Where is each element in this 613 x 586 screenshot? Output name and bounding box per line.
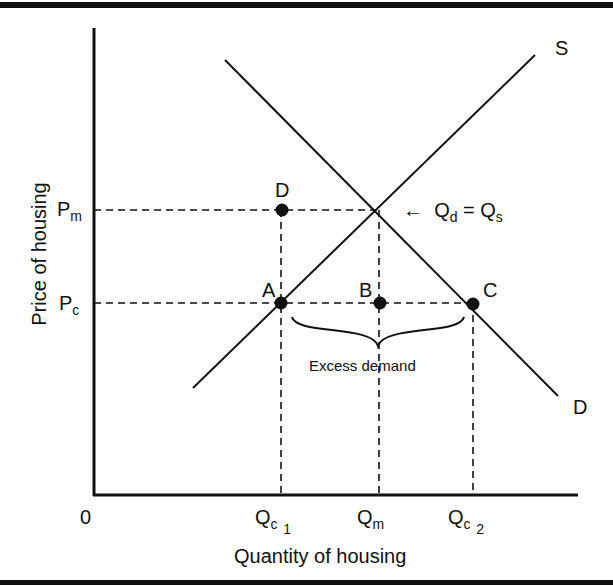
point-d-label: D	[275, 180, 289, 200]
left-arrow-icon: ←	[403, 199, 423, 221]
point-d-dot	[276, 204, 289, 217]
excess-demand-label: Excess demand	[309, 358, 416, 373]
excess-demand-brace	[292, 317, 464, 346]
point-a-label: A	[262, 280, 275, 300]
tick-qc2: Qc 2	[448, 507, 484, 536]
tick-pc: Pc	[59, 293, 79, 317]
x-axis-label: Quantity of housing	[234, 546, 406, 566]
demand-curve	[225, 60, 558, 396]
tick-qm: Qm	[357, 507, 384, 531]
origin-label: 0	[80, 507, 91, 527]
top-border	[0, 2, 613, 8]
y-axis-label: Price of housing	[29, 169, 49, 339]
point-b-label: B	[359, 280, 372, 300]
point-a-dot	[275, 297, 288, 310]
tick-qc1: Qc 1	[255, 507, 291, 536]
equilibrium-annotation: ← Qd = Qs	[403, 200, 503, 224]
diagram-canvas	[0, 0, 613, 586]
tick-pm: Pm	[57, 199, 82, 223]
supply-label: S	[555, 38, 568, 58]
point-b-dot	[374, 297, 387, 310]
demand-label: D	[573, 397, 587, 417]
bottom-border	[0, 580, 613, 585]
point-c-dot	[467, 298, 480, 311]
point-c-label: C	[483, 280, 497, 300]
